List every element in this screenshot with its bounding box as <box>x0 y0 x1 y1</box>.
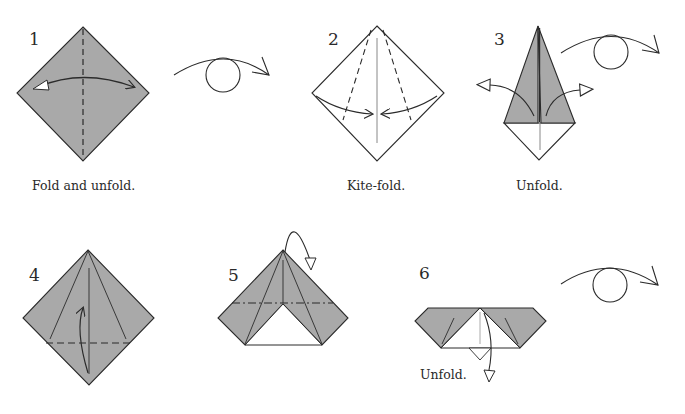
step-5-number: 5 <box>228 265 239 285</box>
step-4-diagram <box>23 250 154 385</box>
step-6-number: 6 <box>419 263 430 283</box>
step-1-number: 1 <box>29 29 40 49</box>
hidden-flap-tip <box>469 348 491 360</box>
step-3-number: 3 <box>494 29 505 49</box>
origami-diagram <box>0 0 685 414</box>
turn-over-symbol-6 <box>561 266 658 302</box>
step-1-caption: Fold and unfold. <box>32 178 135 193</box>
unfold-arrowhead-icon <box>484 370 495 382</box>
turn-over-arrowhead-icon <box>640 266 658 285</box>
step-2-caption: Kite-fold. <box>347 178 405 193</box>
fold-behind-arrowhead-icon <box>305 258 316 270</box>
turn-over-circle-icon <box>594 35 628 69</box>
kite-flap-left <box>504 26 538 123</box>
turn-over-symbol-1 <box>174 57 269 92</box>
step-3-caption: Unfold. <box>516 178 563 193</box>
kite-flap-right <box>538 26 575 123</box>
step-6-caption: Unfold. <box>420 367 467 382</box>
step-2-number: 2 <box>328 29 339 49</box>
turn-over-circle-icon <box>206 58 240 92</box>
turn-over-symbol-3 <box>561 35 659 69</box>
square-paper <box>23 250 154 385</box>
step-4-number: 4 <box>29 265 40 285</box>
step-5-diagram <box>218 232 348 345</box>
turn-over-circle-icon <box>593 268 627 302</box>
